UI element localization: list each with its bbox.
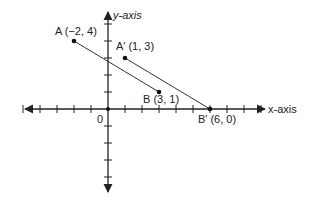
y-axis-label: y-axis [113,10,142,21]
coordinate-diagram: y-axis x-axis 0 A (−2, 4) A′ (1, 3) B (3… [0,0,312,207]
point-a-prime-label: A′ (1, 3) [116,41,154,52]
point-dot [72,39,77,44]
point-dot [123,56,128,61]
point-b-label: B (3, 1) [143,94,179,105]
origin-label: 0 [97,114,103,125]
origin-dot [106,107,110,111]
point-dot [208,107,213,112]
point-a-label: A (−2, 4) [55,26,97,37]
point-b-prime-label: B′ (6, 0) [198,114,236,125]
x-axis-label: x-axis [268,104,297,115]
